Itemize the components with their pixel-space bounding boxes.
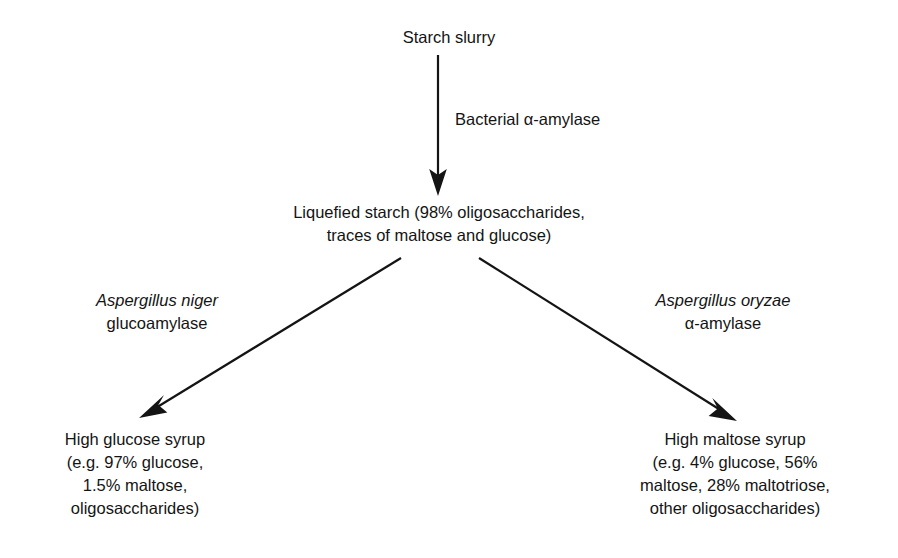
node-liquefied-starch-line-2: traces of maltose and glucose) xyxy=(0,224,878,247)
node-high-maltose-syrup-line-1: High maltose syrup xyxy=(585,428,885,451)
edge-label-bacterial-amylase: Bacterial α-amylase xyxy=(455,108,655,131)
node-high-glucose-syrup: High glucose syrup (e.g. 97% glucose, 1.… xyxy=(10,428,260,520)
node-high-glucose-syrup-line-3: 1.5% maltose, xyxy=(10,474,260,497)
arrow-starch-to-liquefied xyxy=(429,55,447,196)
figure-canvas: Starch slurry Bacterial α-amylase Liquef… xyxy=(0,0,898,558)
edge-label-aspergillus-oryzae: Aspergillus oryzae α-amylase xyxy=(613,289,833,335)
node-high-glucose-syrup-line-4: oligosaccharides) xyxy=(10,497,260,520)
edge-label-aspergillus-oryzae-line-1: Aspergillus oryzae xyxy=(613,289,833,312)
edge-label-aspergillus-niger-line-2: glucoamylase xyxy=(47,312,267,335)
edge-label-aspergillus-niger-line-1: Aspergillus niger xyxy=(47,289,267,312)
edge-label-aspergillus-oryzae-line-2: α-amylase xyxy=(613,312,833,335)
edge-label-aspergillus-niger: Aspergillus niger glucoamylase xyxy=(47,289,267,335)
node-high-glucose-syrup-line-1: High glucose syrup xyxy=(10,428,260,451)
node-high-glucose-syrup-line-2: (e.g. 97% glucose, xyxy=(10,451,260,474)
node-liquefied-starch-line-1: Liquefied starch (98% oligosaccharides, xyxy=(0,201,878,224)
arrow-head xyxy=(139,395,167,418)
arrow-liquefied-to-glucose xyxy=(139,258,401,418)
arrow-head xyxy=(709,398,737,421)
node-starch-slurry: Starch slurry xyxy=(0,26,898,49)
node-high-maltose-syrup-line-4: other oligosaccharides) xyxy=(585,497,885,520)
arrow-liquefied-to-maltose xyxy=(479,258,737,421)
edge-label-bacterial-amylase-line-1: Bacterial α-amylase xyxy=(455,108,655,131)
node-starch-slurry-line-1: Starch slurry xyxy=(0,26,898,49)
node-high-maltose-syrup: High maltose syrup (e.g. 4% glucose, 56%… xyxy=(585,428,885,520)
node-liquefied-starch: Liquefied starch (98% oligosaccharides, … xyxy=(0,201,878,247)
node-high-maltose-syrup-line-3: maltose, 28% maltotriose, xyxy=(585,474,885,497)
node-high-maltose-syrup-line-2: (e.g. 4% glucose, 56% xyxy=(585,451,885,474)
